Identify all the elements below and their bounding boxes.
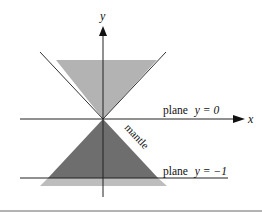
plane-y0-label: plane y = 0 <box>163 104 219 117</box>
double-cone-diagram: x y plane y = 0 plane y = −1 mantle <box>0 0 262 215</box>
y-axis-label: y <box>99 9 106 23</box>
x-axis-arrow-icon <box>233 115 245 123</box>
y-axis-arrow-icon <box>99 26 107 36</box>
upper-cone-region <box>56 60 157 119</box>
x-axis-label: x <box>247 112 254 126</box>
plane-y-minus1-label: plane y = −1 <box>163 165 227 178</box>
